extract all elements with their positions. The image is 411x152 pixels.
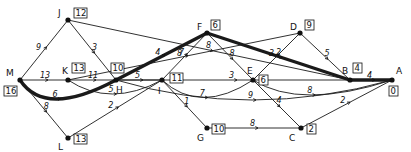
edge-weight: 5 [109,85,114,94]
node-dot-icon [250,77,255,82]
node-value: 12 [76,8,87,18]
node-label: D [290,22,297,32]
node-label: E [247,66,253,76]
node-g: G10 [197,124,225,143]
edge-weight: 6 [53,90,58,99]
node-c: C2 [289,124,316,143]
node-f: F6 [197,20,220,36]
edge-weight: 9 [248,91,253,100]
edge-weight: 2 [108,101,113,110]
edge-weight: 3 [92,43,97,52]
node-dot-icon [17,77,22,82]
edge-e-d [253,33,300,80]
node-dot-icon [204,125,209,130]
node-a: A0 [389,66,403,96]
node-value: 6 [213,20,218,30]
node-value: 2 [309,124,314,134]
node-dot-icon [204,30,209,35]
node-dot-icon [65,17,70,22]
node-dot-icon [113,77,118,82]
node-dot-icon [65,135,70,140]
edge-weight: 7 [200,89,206,98]
edges: 9136838117524539817283488524 [20,20,392,138]
network-diagram: 9136838117524539817283488524 M16J12K13L1… [0,0,411,152]
node-label: I [158,86,161,96]
edge-i-f [162,33,207,80]
edge-weight: 2 [340,96,345,105]
edge-weight: 4 [367,71,372,80]
node-m: M16 [4,68,23,96]
edge-weight: 5 [135,71,140,80]
node-dot-icon [298,125,303,130]
edge-weight: 8 [177,49,182,58]
node-value: 11 [172,73,183,83]
edge-e-a [253,80,392,95]
edge-weight: 4 [155,48,160,57]
edge-weight: 8 [250,119,255,128]
edge-weight: 3 [269,49,274,58]
node-label: F [197,22,202,32]
node-label: G [197,133,204,143]
node-dot-icon [65,77,70,82]
node-value: 13 [74,63,85,73]
node-label: M [6,68,14,78]
edge-weight: 1 [184,97,189,106]
node-value: 10 [214,124,225,134]
edge-weight: 4 [277,96,282,105]
edge-weight: 8 [44,102,49,111]
node-dot-icon [159,77,164,82]
edge-weight: 5 [324,49,329,58]
node-value: 13 [76,134,87,144]
edge-weight: 13 [40,71,50,80]
node-label: C [289,133,295,143]
edge-weight: 8 [230,49,235,58]
node-d: D9 [290,20,314,36]
node-value: 6 [261,75,266,85]
node-label: B [342,66,348,76]
node-dot-icon [347,77,352,82]
node-label: H [116,85,123,95]
node-dot-icon [297,30,302,35]
edge-m-h [20,80,116,99]
node-dot-icon [389,77,394,82]
node-label: K [62,66,69,76]
node-value: 16 [6,86,17,96]
node-value: 0 [391,86,396,96]
node-label: A [396,66,403,76]
edge-weight: 8 [206,41,211,50]
node-value: 10 [113,63,124,73]
node-label: J [57,8,61,18]
node-l: L13 [58,134,87,152]
node-value: 4 [355,63,360,73]
edge-weight: 8 [307,86,312,95]
edge-weight: 3 [229,71,234,80]
node-value: 9 [307,20,312,30]
edge-weight: 9 [36,43,41,52]
node-label: L [58,142,63,152]
edge-c-a [301,80,392,128]
